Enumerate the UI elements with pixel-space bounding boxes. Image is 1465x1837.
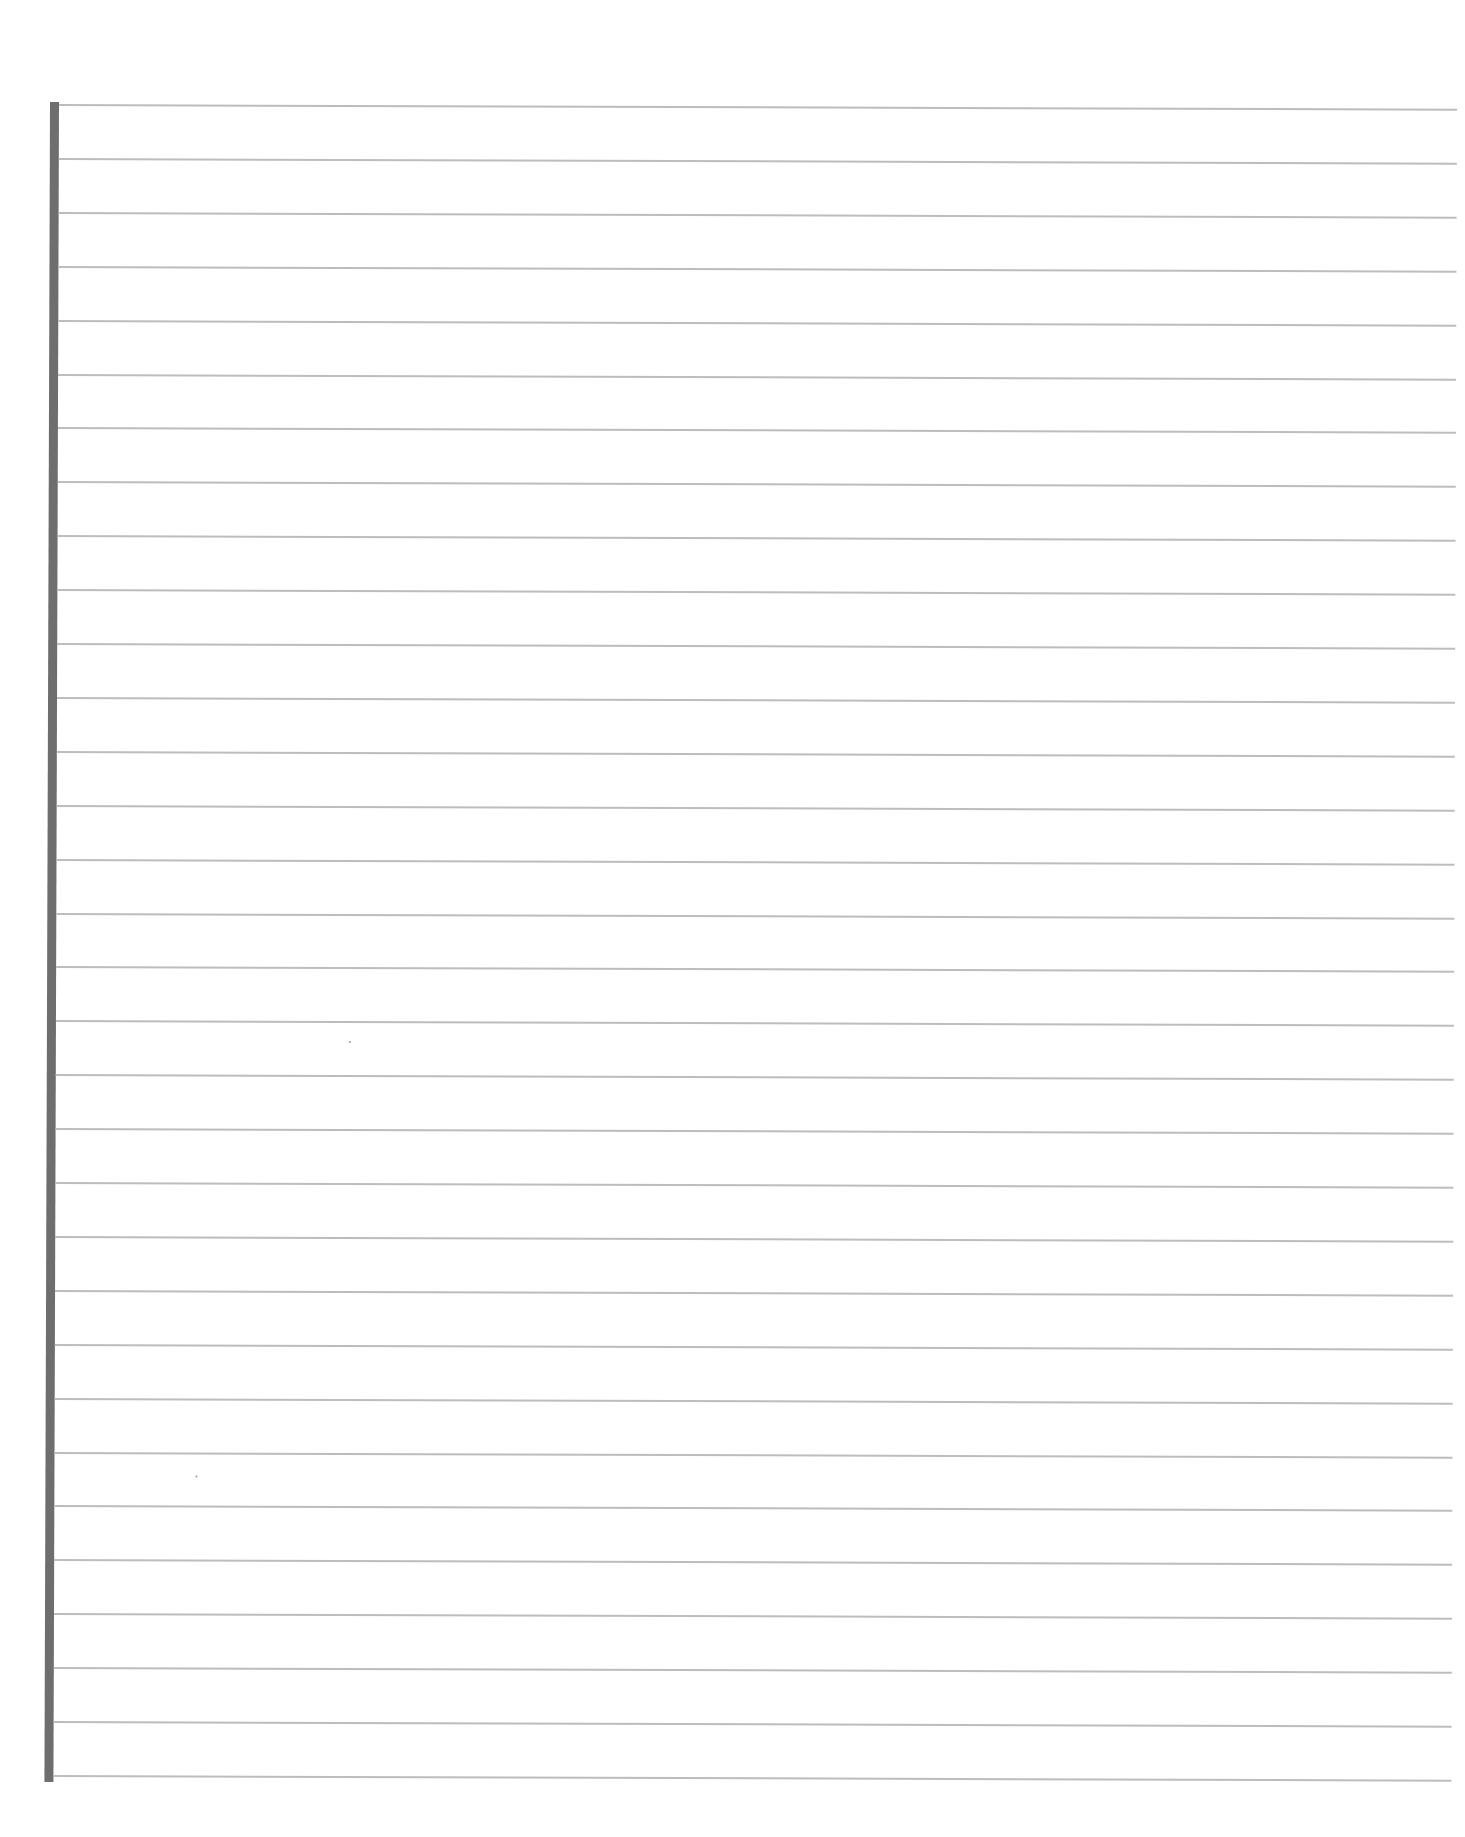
paper-speck (349, 1041, 351, 1043)
ruled-line (58, 535, 1456, 542)
ruled-line (55, 1182, 1453, 1189)
ruled-line (57, 805, 1455, 812)
ruled-line (54, 1613, 1452, 1620)
ruled-line (57, 751, 1455, 758)
ruled-line (58, 427, 1456, 434)
ruled-line (56, 859, 1454, 866)
ruled-line (55, 1290, 1453, 1297)
ruled-line (56, 1074, 1454, 1081)
ruled-line (54, 1559, 1452, 1566)
ruled-line (56, 1128, 1454, 1135)
ruled-line (57, 643, 1455, 650)
ruled-line (57, 589, 1455, 596)
ruled-line (58, 266, 1456, 273)
ruled-line (58, 374, 1456, 381)
lined-paper-page (0, 0, 1465, 1837)
ruled-line (54, 1721, 1452, 1728)
ruled-line (54, 1505, 1452, 1512)
ruled-line (55, 1452, 1453, 1459)
ruled-line (58, 320, 1456, 327)
paper-speck (195, 1475, 197, 1477)
page-text (0, 0, 1465, 5)
left-margin-bar (44, 102, 59, 1782)
ruled-line (55, 1398, 1453, 1405)
ruled-line (58, 481, 1456, 488)
ruled-line (56, 913, 1454, 920)
ruled-line (55, 1344, 1453, 1351)
ruled-line (56, 1020, 1454, 1027)
ruled-line (59, 158, 1457, 165)
ruled-line (53, 1775, 1451, 1782)
ruled-line (59, 104, 1457, 111)
ruled-line (57, 697, 1455, 704)
ruled-line (59, 212, 1457, 219)
ruled-line (55, 1236, 1453, 1243)
ruled-line (54, 1667, 1452, 1674)
ruled-line (56, 966, 1454, 973)
ruled-lines (0, 0, 1465, 5)
